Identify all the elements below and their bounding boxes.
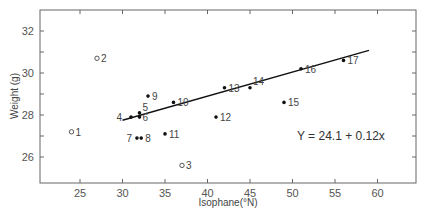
y-tick-label: 28 xyxy=(22,109,34,121)
x-axis-ticks: 2530354045505560 xyxy=(74,10,384,199)
point-label: 12 xyxy=(220,112,232,123)
data-point xyxy=(139,136,143,140)
data-points: 1234567891011121314151617 xyxy=(69,53,359,171)
data-point xyxy=(129,115,133,119)
data-point xyxy=(163,132,167,136)
point-label: 8 xyxy=(145,133,151,144)
data-point xyxy=(342,59,346,63)
scatter-chart: 2530354045505560 26283032 12345678910111… xyxy=(0,0,431,217)
data-point xyxy=(214,115,218,119)
regression-line-path xyxy=(123,50,370,120)
x-tick-label: 55 xyxy=(329,187,341,199)
y-axis-label: Weight (g) xyxy=(9,73,20,119)
point-label: 6 xyxy=(143,112,149,123)
point-label: 3 xyxy=(186,160,192,171)
data-point xyxy=(223,86,227,90)
x-axis-label: Isophane(°N) xyxy=(198,197,257,208)
point-label: 13 xyxy=(229,83,241,94)
point-label: 17 xyxy=(348,55,360,66)
data-point xyxy=(299,67,303,71)
point-label: 16 xyxy=(305,64,317,75)
point-label: 10 xyxy=(178,97,190,108)
point-label: 7 xyxy=(126,133,132,144)
x-tick-label: 35 xyxy=(159,187,171,199)
data-point-open xyxy=(180,163,184,167)
data-point xyxy=(282,101,286,105)
data-point xyxy=(172,101,176,105)
plot-frame xyxy=(40,10,416,183)
data-point xyxy=(135,136,139,140)
x-tick-label: 60 xyxy=(371,187,383,199)
data-point xyxy=(138,111,142,115)
y-tick-label: 30 xyxy=(22,67,34,79)
data-point-open xyxy=(69,130,73,134)
regression-equation: Y = 24.1 + 0.12x xyxy=(297,129,385,143)
point-label: 2 xyxy=(101,53,107,64)
regression-line xyxy=(123,50,370,120)
data-point xyxy=(248,86,252,90)
x-tick-label: 25 xyxy=(74,187,86,199)
y-tick-label: 26 xyxy=(22,151,34,163)
point-label: 14 xyxy=(253,76,265,87)
data-point xyxy=(138,115,142,119)
point-label: 15 xyxy=(288,97,300,108)
x-tick-label: 30 xyxy=(116,187,128,199)
point-label: 1 xyxy=(76,127,82,138)
point-label: 9 xyxy=(152,91,158,102)
y-tick-label: 32 xyxy=(22,25,34,37)
point-label: 4 xyxy=(116,112,122,123)
x-tick-label: 50 xyxy=(286,187,298,199)
point-label: 11 xyxy=(169,129,180,140)
data-point xyxy=(146,94,150,98)
data-point-open xyxy=(95,56,99,60)
